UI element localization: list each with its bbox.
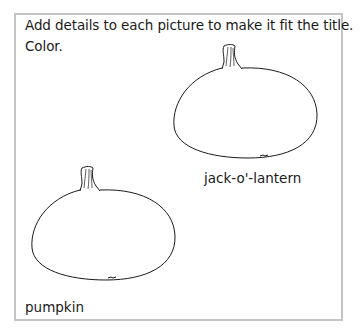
pumpkin-outline-icon	[28, 166, 180, 284]
instruction-line-1: Add details to each picture to make it f…	[25, 17, 353, 33]
instruction-line-2: Color.	[25, 38, 63, 54]
pumpkin-outline-icon	[170, 44, 322, 162]
picture-title-jack-o-lantern: jack-o'-lantern	[204, 170, 301, 186]
picture-title-pumpkin: pumpkin	[25, 299, 84, 315]
